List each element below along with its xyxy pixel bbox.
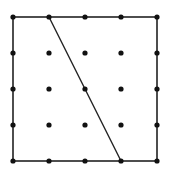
grid-dot bbox=[46, 86, 51, 91]
grid-dot bbox=[118, 158, 123, 163]
grid-dot bbox=[46, 50, 51, 55]
grid-dot bbox=[46, 158, 51, 163]
grid-dot bbox=[82, 122, 87, 127]
grid-dot bbox=[118, 122, 123, 127]
grid-dot bbox=[154, 50, 159, 55]
grid-dot bbox=[10, 86, 15, 91]
grid-dot bbox=[154, 158, 159, 163]
grid-dot bbox=[10, 14, 15, 19]
grid-dot bbox=[10, 50, 15, 55]
grid-dot bbox=[118, 86, 123, 91]
grid-dot bbox=[118, 50, 123, 55]
grid-dot bbox=[46, 122, 51, 127]
grid-dot bbox=[154, 86, 159, 91]
grid-dot bbox=[10, 158, 15, 163]
background bbox=[0, 0, 181, 182]
grid-dot bbox=[82, 86, 87, 91]
grid-dot bbox=[46, 14, 51, 19]
grid-dot bbox=[82, 158, 87, 163]
geoboard-diagram bbox=[0, 0, 181, 182]
grid-dot bbox=[82, 50, 87, 55]
grid-dot bbox=[118, 14, 123, 19]
grid-dot bbox=[82, 14, 87, 19]
grid-dot bbox=[10, 122, 15, 127]
grid-dot bbox=[154, 122, 159, 127]
grid-dot bbox=[154, 14, 159, 19]
